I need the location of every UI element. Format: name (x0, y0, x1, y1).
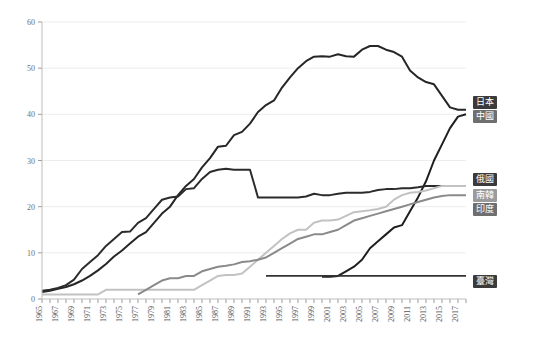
x-tick-label: 2003 (339, 306, 348, 322)
line-chart: 0102030405060 19651967196919711973197519… (0, 0, 535, 343)
x-tick-label: 1965 (35, 306, 44, 322)
x-axis-labels: 1965196719691971197319751977197919811983… (35, 306, 460, 322)
series-line (42, 186, 466, 294)
x-tick-label: 1983 (179, 306, 188, 322)
series-lines (42, 46, 466, 294)
series-line (42, 46, 466, 292)
x-tick-label: 1995 (275, 306, 284, 322)
x-tick-label: 1981 (163, 306, 172, 322)
x-tick-label: 1987 (211, 306, 220, 322)
x-tick-label: 1977 (131, 306, 140, 322)
y-tick-label: 10 (27, 249, 35, 258)
x-tick-label: 2001 (323, 306, 332, 322)
x-tick-label: 1979 (147, 306, 156, 322)
y-tick-label: 20 (27, 203, 35, 212)
y-axis-ticks: 0102030405060 (27, 18, 42, 304)
x-tick-label: 1971 (83, 306, 92, 322)
legend-label-6: 臺灣 (473, 275, 497, 288)
legend-label-5: 印度 (473, 203, 497, 216)
chart-canvas: 0102030405060 19651967196919711973197519… (0, 0, 535, 343)
x-tick-label: 2005 (355, 306, 364, 322)
x-tick-label: 1975 (115, 306, 124, 322)
x-tick-label: 1973 (99, 306, 108, 322)
legend-label-3: 俄國 (473, 173, 497, 186)
y-tick-label: 40 (27, 110, 35, 119)
x-tick-label: 1997 (291, 306, 300, 322)
x-tick-label: 1985 (195, 306, 204, 322)
legend-label-1: 日本 (473, 96, 497, 109)
x-tick-label: 2007 (371, 306, 380, 322)
y-tick-label: 60 (27, 18, 35, 27)
x-tick-label: 2013 (419, 306, 428, 322)
series-line (42, 169, 466, 291)
x-tick-label: 1967 (51, 306, 60, 322)
x-tick-label: 1989 (227, 306, 236, 322)
x-tick-label: 1993 (259, 306, 268, 322)
x-axis-ticks (42, 299, 466, 303)
x-tick-label: 2017 (451, 306, 460, 322)
legend-label-4: 南韓 (473, 189, 497, 202)
x-tick-label: 1999 (307, 306, 316, 322)
x-tick-label: 1991 (243, 306, 252, 322)
legend-label-2: 中國 (473, 110, 497, 123)
x-tick-label: 2011 (403, 306, 412, 322)
y-tick-label: 50 (27, 64, 35, 73)
y-tick-label: 30 (27, 157, 35, 166)
x-tick-label: 2015 (435, 306, 444, 322)
series-line (138, 195, 466, 294)
y-tick-label: 0 (31, 295, 35, 304)
x-tick-label: 2009 (387, 306, 396, 322)
x-tick-label: 1969 (67, 306, 76, 322)
